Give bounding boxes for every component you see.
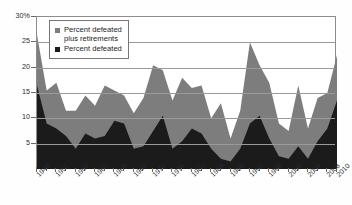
legend-swatch-gray-icon xyxy=(55,28,60,33)
legend-swatch-black-icon xyxy=(55,47,60,52)
y-axis-label-15: 15 xyxy=(22,88,30,96)
y-axis-label-20: 20 xyxy=(22,63,30,71)
y-axis-label-10: 10 xyxy=(22,113,30,121)
area-chart: 51015202530% Percent defeated plus retir… xyxy=(0,0,352,205)
legend-item-percent-defeated-plus-retirements: Percent defeated plus retirements xyxy=(55,25,122,43)
y-axis: 51015202530% xyxy=(0,0,36,172)
legend-label-line1: Percent defeated xyxy=(64,44,122,53)
legend-item-percent-defeated: Percent defeated xyxy=(55,44,122,53)
x-axis: 1948195219561960196419681972197619801984… xyxy=(36,168,337,205)
legend: Percent defeated plus retirements Percen… xyxy=(49,20,129,59)
y-axis-label-30: 30% xyxy=(16,12,30,20)
y-axis-label-5: 5 xyxy=(26,139,30,147)
legend-label-group: Percent defeated plus retirements xyxy=(64,25,122,43)
legend-label-line1: Percent defeated xyxy=(64,25,122,34)
legend-label-line2: plus retirements xyxy=(64,34,122,43)
y-axis-label-25: 25 xyxy=(22,37,30,45)
